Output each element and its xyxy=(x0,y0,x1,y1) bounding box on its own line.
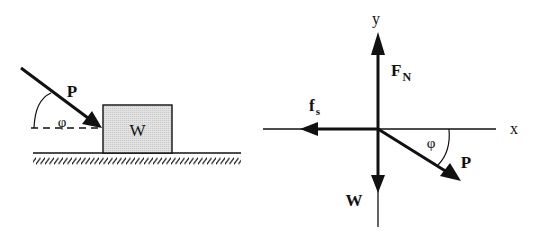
free-body-diagram: x y FN fs W P φ xyxy=(263,10,518,227)
force-applied-arrow xyxy=(378,129,461,181)
force-friction-arrow xyxy=(300,122,378,136)
angle-phi-label-right: φ xyxy=(427,135,436,151)
block-on-surface-figure: W φ P xyxy=(21,68,241,167)
physics-diagram: W φ P x y FN fs xyxy=(0,0,534,236)
force-friction-label: fs xyxy=(309,96,321,117)
force-p-label-left: P xyxy=(67,82,77,101)
y-axis-label: y xyxy=(372,10,380,28)
force-normal-label: FN xyxy=(391,61,411,84)
x-axis-label: x xyxy=(510,120,518,137)
force-weight-label: W xyxy=(346,191,363,210)
angle-phi-label-left: φ xyxy=(58,114,67,130)
force-weight-arrow xyxy=(371,129,385,193)
force-normal-arrow xyxy=(371,32,385,129)
force-applied-label: P xyxy=(461,153,471,172)
block-label: W xyxy=(129,121,146,140)
angle-arc-right xyxy=(438,129,449,165)
block-w: W xyxy=(103,105,172,153)
angle-arc-left xyxy=(34,93,51,128)
ground-surface xyxy=(33,153,241,167)
